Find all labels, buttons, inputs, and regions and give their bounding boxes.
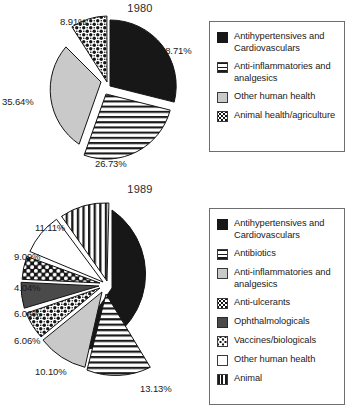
legend-label: Antihypertensives and Cardiovasculars xyxy=(234,218,338,241)
legend-label: Vaccines/biologicals xyxy=(234,335,316,347)
pie-label-antibiotics-1989: 13.13% xyxy=(140,383,172,394)
pie-label-vaccines-1989: 4.04% xyxy=(14,282,40,293)
legend-label: Anti-ulcerants xyxy=(234,297,290,309)
swatch-dark-gray-icon xyxy=(217,317,228,328)
legend-item-anti-inflammatories-1989[interactable]: Anti-inflammatories and analgesics xyxy=(217,267,338,290)
pie-label-anti-ulcerants-1989: 6.06% xyxy=(14,335,40,346)
legend-item-animal-health-1980[interactable]: Animal health/agriculture xyxy=(217,110,338,122)
pie-label-other-human-health-1980: 35.64% xyxy=(2,96,34,107)
legend-label: Other human health xyxy=(234,354,315,366)
pie-slice-antihypertensives-1980 xyxy=(110,20,176,102)
pie-label-animal-1989: 11.11% xyxy=(35,222,65,233)
swatch-light-gray-icon xyxy=(217,92,228,103)
legend-label: Antihypertensives and Cardiovasculars xyxy=(234,31,338,54)
legend-1989: Antihypertensives and Cardiovasculars An… xyxy=(209,208,345,405)
swatch-dots-icon xyxy=(217,336,228,347)
legend-item-anti-inflammatories-1980[interactable]: Anti-inflammatories and analgesics xyxy=(217,61,338,84)
pie-label-antihypertensives-1980: 28.71% xyxy=(160,45,192,56)
chart-panel-1980: 1980 28.71% 26.73% 35.64% 8.91% xyxy=(0,0,354,180)
swatch-light-gray-icon xyxy=(217,268,228,279)
pie-slice-anti-inflammatories-1980 xyxy=(84,94,170,159)
pie-label-anti-inflammatories-1980: 26.73% xyxy=(95,158,127,169)
legend-label: Anti-inflammatories and analgesics xyxy=(234,267,338,290)
legend-item-ophthalmologicals-1989[interactable]: Ophthalmologicals xyxy=(217,316,338,328)
legend-label: Other human health xyxy=(234,91,315,103)
legend-label: Animal health/agriculture xyxy=(234,110,335,122)
swatch-solid-black-icon xyxy=(217,32,228,43)
pie-label-animal-health-1980: 8.91% xyxy=(60,16,86,27)
legend-item-vaccines-1989[interactable]: Vaccines/biologicals xyxy=(217,335,338,347)
swatch-horizontal-lines-icon xyxy=(217,62,228,73)
legend-item-other-human-health-1980[interactable]: Other human health xyxy=(217,91,338,103)
legend-1980: Antihypertensives and Cardiovasculars An… xyxy=(209,21,345,152)
pie-label-other-human-health-1989: 9.09% xyxy=(14,251,40,262)
pie-label-ophthalmologicals-1989: 6.06% xyxy=(14,308,40,319)
swatch-checker-icon xyxy=(217,111,228,122)
legend-label: Anti-inflammatories and analgesics xyxy=(234,61,338,84)
legend-item-anti-ulcerants-1989[interactable]: Anti-ulcerants xyxy=(217,297,338,309)
legend-label: Ophthalmologicals xyxy=(234,316,310,328)
swatch-white-icon xyxy=(217,355,228,366)
swatch-checker-icon xyxy=(217,298,228,309)
swatch-vertical-lines-icon xyxy=(217,374,228,385)
legend-item-animal-1989[interactable]: Animal xyxy=(217,373,338,385)
legend-item-other-human-health-1989[interactable]: Other human health xyxy=(217,354,338,366)
chart-panel-1989: 1989 xyxy=(0,180,354,415)
legend-label: Animal xyxy=(234,373,262,385)
legend-item-antibiotics-1989[interactable]: Antibiotics xyxy=(217,248,338,260)
pie-chart-1980 xyxy=(12,12,202,177)
legend-item-antihypertensives-1989[interactable]: Antihypertensives and Cardiovasculars xyxy=(217,218,338,241)
legend-item-antihypertensives-1980[interactable]: Antihypertensives and Cardiovasculars xyxy=(217,31,338,54)
swatch-horizontal-lines-icon xyxy=(217,249,228,260)
legend-label: Antibiotics xyxy=(234,248,276,260)
pie-label-anti-inflammatories-1989: 10.10% xyxy=(35,366,67,377)
swatch-solid-black-icon xyxy=(217,219,228,230)
